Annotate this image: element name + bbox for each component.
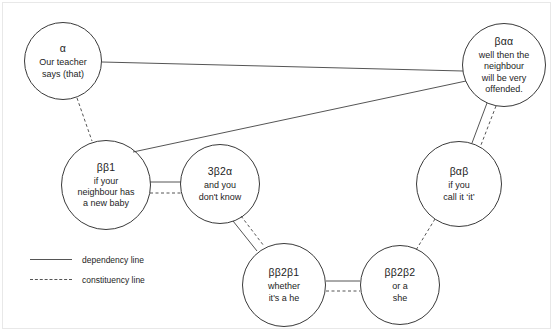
node-text: if you call it ‘it’ [438, 180, 480, 203]
node-text: well then the neighbour will be very off… [474, 50, 535, 95]
node-betabeta2beta1[interactable]: ββ2β1whether it's a he [242, 243, 326, 327]
node-label: ββ1 [97, 161, 116, 173]
node-label: 3β2α [208, 165, 233, 177]
edge-dependency [233, 221, 257, 251]
edge-constituency [241, 216, 264, 246]
node-text: or a she [387, 281, 413, 304]
node-label: βαβ [450, 165, 469, 177]
legend-row: constituency line [30, 270, 210, 290]
edge-constituency [77, 98, 92, 141]
edge-dependency [133, 81, 466, 152]
node-label: ββ2β2 [385, 266, 416, 278]
node-text: and you don't know [194, 180, 247, 203]
node-label: βαα [495, 35, 514, 47]
edge-dependency [472, 103, 487, 143]
node-betabeta2beta2[interactable]: ββ2β2or a she [360, 245, 440, 325]
legend-line-solid-icon [30, 259, 72, 261]
node-text: if your neighbour has a new baby [72, 176, 139, 210]
legend-line-dashed-icon [30, 279, 72, 281]
edge-dependency [102, 62, 463, 71]
node-label: ββ2β1 [269, 266, 300, 278]
legend: dependency lineconstituency line [30, 250, 210, 290]
node-text: whether it's a he [263, 281, 305, 304]
legend-label: constituency line [82, 275, 145, 285]
legend-label: dependency line [82, 255, 144, 265]
legend-row: dependency line [30, 250, 210, 270]
node-text: Our teacher says (that) [34, 57, 92, 80]
node-betabeta1[interactable]: ββ1if your neighbour has a new baby [61, 140, 151, 230]
node-threebeta2alpha[interactable]: 3β2αand you don't know [180, 144, 260, 224]
diagram-canvas: αOur teacher says (that)βααwell then the… [0, 0, 555, 333]
edge-constituency [416, 219, 435, 250]
node-label: α [60, 42, 66, 54]
node-betaalphabeta[interactable]: βαβif you call it ‘it’ [416, 141, 502, 227]
node-betaalphaalpha[interactable]: βααwell then the neighbour will be very … [462, 23, 546, 107]
node-alpha[interactable]: αOur teacher says (that) [24, 22, 102, 100]
